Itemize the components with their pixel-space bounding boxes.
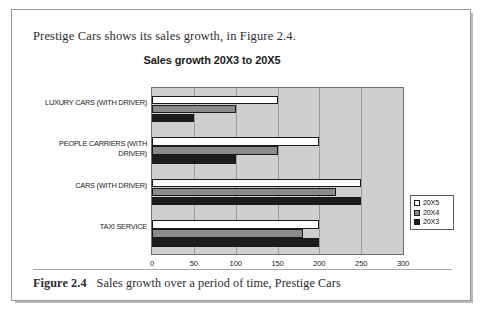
intro-paragraph: Prestige Cars shows its sales growth, in… xyxy=(33,29,296,44)
bar xyxy=(152,114,194,123)
figure-panel: Prestige Cars shows its sales growth, in… xyxy=(11,9,471,301)
legend-item: 20X3 xyxy=(414,218,450,227)
chart-legend: 20X520X420X3 xyxy=(410,195,454,230)
axis-tick-label: 250 xyxy=(355,259,367,268)
bar xyxy=(152,96,278,105)
legend-label: 20X3 xyxy=(423,218,439,226)
axis-tick-label: 100 xyxy=(230,259,242,268)
legend-swatch-icon xyxy=(414,219,420,225)
category-label: LUXURY CARS (WITH DRIVER) xyxy=(29,98,147,108)
category-label: CARS (WITH DRIVER) xyxy=(29,181,147,191)
legend-swatch-icon xyxy=(414,210,420,216)
legend-swatch-icon xyxy=(414,200,420,206)
gridline xyxy=(361,88,362,254)
bar xyxy=(152,155,236,164)
bar xyxy=(152,179,361,188)
gridline xyxy=(319,88,320,254)
chart: Sales growth 20X3 to 20X5 LUXURY CARS (W… xyxy=(12,54,470,259)
gridline xyxy=(403,88,404,254)
bar xyxy=(152,238,319,247)
category-label: PEOPLE CARRIERS (WITH DRIVER) xyxy=(29,139,147,158)
axis-tick-label: 200 xyxy=(313,259,325,268)
legend-label: 20X5 xyxy=(423,199,439,207)
caption-figure-number: Figure 2.4 xyxy=(33,276,87,290)
axis-tick-label: 0 xyxy=(150,259,154,268)
legend-item: 20X4 xyxy=(414,208,450,217)
category-label: TAXI SERVICE xyxy=(29,222,147,232)
bar xyxy=(152,220,319,229)
bar xyxy=(152,105,236,114)
bar xyxy=(152,146,278,155)
legend-label: 20X4 xyxy=(423,209,439,217)
axis-tick-label: 50 xyxy=(190,259,198,268)
caption-description: Sales growth over a period of time, Pres… xyxy=(97,276,341,290)
figure-caption: Figure 2.4Sales growth over a period of … xyxy=(33,276,341,291)
bar xyxy=(152,229,303,238)
category-axis: LUXURY CARS (WITH DRIVER)PEOPLE CARRIERS… xyxy=(27,87,147,255)
caption-divider xyxy=(33,269,452,270)
legend-item: 20X5 xyxy=(414,199,450,208)
axis-tick-label: 300 xyxy=(397,259,409,268)
bar xyxy=(152,188,336,197)
chart-title: Sales growth 20X3 to 20X5 xyxy=(12,54,412,66)
axis-tick-label: 150 xyxy=(271,259,283,268)
bar xyxy=(152,197,361,206)
bar xyxy=(152,137,319,146)
plot-area xyxy=(151,87,404,255)
